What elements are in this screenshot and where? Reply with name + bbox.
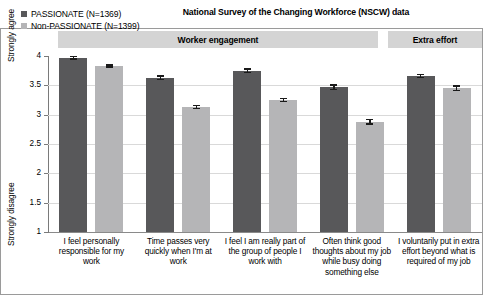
bar-passionate <box>233 71 261 232</box>
y-axis-tick <box>44 232 49 233</box>
y-axis-tick-label: 4 <box>17 52 41 60</box>
plot-area <box>48 56 482 232</box>
bar-passionate <box>59 58 87 232</box>
y-axis-tick-label: 2 <box>17 169 41 177</box>
y-axis-tick-label: 3 <box>17 111 41 119</box>
bar-passionate <box>320 87 348 232</box>
x-axis-category-label: Time passes very quickly when I'm at wor… <box>137 236 220 267</box>
bar-nonpassionate <box>443 88 471 232</box>
y-axis-tick-label: 3.5 <box>17 81 41 89</box>
bar-passionate <box>407 76 435 232</box>
bar-nonpassionate <box>356 122 384 232</box>
error-bar <box>157 75 164 80</box>
chart-title: National Survey of the Changing Workforc… <box>136 7 456 17</box>
group-band-label: Extra effort <box>413 35 458 45</box>
legend-label-nonpassionate: Non-PASSIONATE (N=1399) <box>31 21 139 31</box>
legend-swatch-passionate <box>21 11 27 17</box>
group-band-label: Worker engagement <box>178 35 259 45</box>
error-bar <box>330 84 337 90</box>
error-bar <box>453 85 460 91</box>
bar-nonpassionate <box>269 100 297 232</box>
legend-item-passionate: PASSIONATE (N=1369) <box>21 8 139 19</box>
x-axis-category-label: I voluntarily put in extra effort beyond… <box>397 236 480 267</box>
y-axis-label-bottom: Strongly disagree <box>6 183 16 246</box>
y-axis-tick-label: 1 <box>17 228 41 236</box>
x-axis-category-label: I feel personally responsible for my wor… <box>50 236 133 267</box>
legend-item-nonpassionate: Non-PASSIONATE (N=1399) <box>21 20 139 31</box>
y-axis-label-top: Strongly agree <box>6 9 16 62</box>
legend-swatch-nonpassionate <box>21 23 27 29</box>
y-axis-tick-label: 1.5 <box>17 199 41 207</box>
x-axis-category-label: Often think good thoughts about my job w… <box>310 236 393 277</box>
x-axis-category-label: I feel I am really part of the group of … <box>224 236 307 267</box>
error-bar <box>70 56 77 60</box>
chart-container: PASSIONATE (N=1369) Non-PASSIONATE (N=13… <box>0 0 484 296</box>
error-bar <box>244 68 251 73</box>
bar-passionate <box>146 78 174 232</box>
chart-legend: PASSIONATE (N=1369) Non-PASSIONATE (N=13… <box>21 8 139 32</box>
bar-nonpassionate <box>95 66 123 232</box>
group-band-worker-engagement: Worker engagement <box>58 31 378 48</box>
group-band-extra-effort: Extra effort <box>388 31 482 48</box>
error-bar <box>106 64 113 68</box>
legend-label-passionate: PASSIONATE (N=1369) <box>31 9 121 19</box>
x-axis-line <box>48 232 482 233</box>
bar-nonpassionate <box>182 107 210 232</box>
error-bar <box>366 119 373 125</box>
error-bar <box>417 74 424 79</box>
error-bar <box>193 105 200 110</box>
error-bar <box>280 98 287 103</box>
y-axis-tick-label: 2.5 <box>17 140 41 148</box>
